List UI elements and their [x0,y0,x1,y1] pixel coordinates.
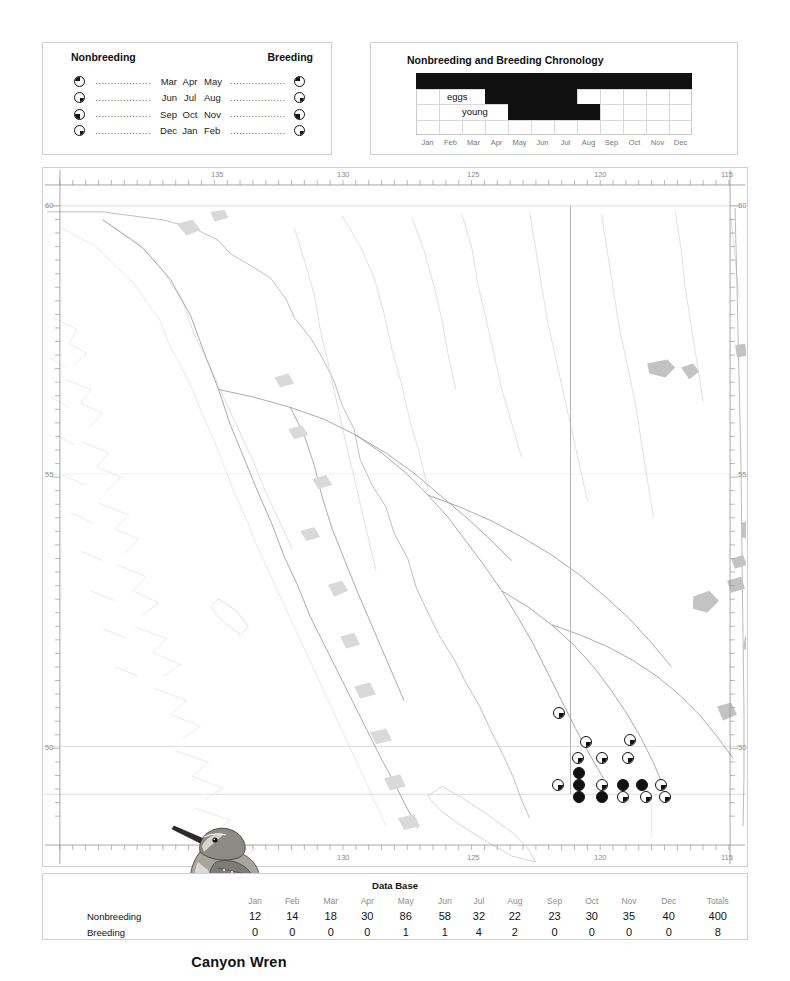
pie-quarter-bottom-right-icon [294,92,305,103]
table-total-cell: 400 [689,908,747,924]
legend-month-right: Aug [202,92,230,103]
map-record-symbol[interactable] [596,779,608,791]
chronology-month-label: Jun [531,138,554,147]
table-cell: 18 [311,908,349,924]
table-cell: 0 [574,924,609,940]
chronology-label-eggs: eggs [445,90,470,104]
chronology-month-label: Aug [577,138,600,147]
legend-leader-dots: .................. [85,76,151,86]
table-column-header: Feb [273,894,311,908]
table-cell: 22 [495,908,535,924]
map-lat-label-left: 50 [45,743,53,752]
legend-headings: Nonbreeding Breeding [43,51,331,71]
legend-row: .................. Mar Apr May .........… [43,73,331,90]
table-cell: 58 [427,908,463,924]
legend-row: .................. Sep Oct Nov .........… [43,106,331,123]
map-record-symbol[interactable] [617,779,629,791]
distribution-map[interactable] [43,168,747,866]
map-record-symbol[interactable] [659,791,671,803]
map-record-symbol[interactable] [552,779,564,791]
chronology-month-label: Apr [485,138,508,147]
legend-row: .................. Dec Jan Feb .........… [43,123,331,140]
chronology-month-label: Jul [554,138,577,147]
table-row-label: Breeding [43,924,237,940]
legend-leader-dots: .................. [230,93,294,103]
map-record-symbol[interactable] [622,752,634,764]
pie-quarter-bottom-left-icon [294,109,305,120]
table-header-row: JanFebMarAprMayJunJulAugSepOctNovDecTota… [43,894,747,908]
legend-symbol-right [294,109,308,120]
database-title: Data Base [43,880,747,891]
nonbreeding-bar [416,73,692,89]
map-record-symbol[interactable] [573,791,585,803]
species-name: Canyon Wren [139,954,339,970]
legend-symbol-right [294,76,308,87]
legend-month-mid: Jul [178,92,202,103]
chronology-month-label: Jan [416,138,439,147]
map-record-symbol[interactable] [573,767,585,779]
table-cell: 0 [535,924,575,940]
legend-leader-dots: .................. [85,109,151,119]
map-record-symbol[interactable] [580,736,592,748]
legend-month-mid: Apr [178,76,202,87]
map-record-symbol[interactable] [640,791,652,803]
table-total-cell: 8 [689,924,747,940]
table-cell: 1 [427,924,463,940]
map-lon-label-bottom: 120 [594,853,607,862]
legend-rows: .................. Mar Apr May .........… [43,73,331,139]
legend-leader-dots: .................. [230,76,294,86]
pie-quarter-top-left-icon [294,76,305,87]
legend-month-left: Dec [151,125,178,136]
table-cell: 0 [609,924,649,940]
legend-month-mid: Oct [178,109,202,120]
map-lat-label-right: 50 [738,743,746,752]
table-cell: 23 [535,908,575,924]
map-lon-label-top: 115 [721,170,733,179]
chronology-month-label: Feb [439,138,462,147]
chronology-panel: Nonbreeding and Breeding Chronology eggs… [370,42,738,155]
legend-panel: Nonbreeding Breeding .................. … [42,42,332,155]
map-record-symbol[interactable] [553,707,565,719]
eggs-bar [485,89,577,105]
pie-quarter-bottom-right-icon [74,92,85,103]
map-lon-label-top: 135 [211,170,224,179]
map-record-symbol[interactable] [617,791,629,803]
table-cell: 35 [609,908,649,924]
pie-quarter-top-left-icon [74,76,85,87]
table-column-header: Totals [689,894,747,908]
map-record-symbol[interactable] [596,752,608,764]
legend-heading-breeding: Breeding [267,51,313,63]
map-record-symbol[interactable] [573,779,585,791]
table-body: Nonbreeding121418308658322223303540400Br… [43,908,747,940]
legend-leader-dots: .................. [85,126,151,136]
pie-quarter-bottom-right-icon [294,125,305,136]
map-record-symbol[interactable] [624,734,636,746]
legend-symbol-left [71,109,85,120]
table-column-header: Jul [463,894,495,908]
map-lat-label-left: 55 [45,470,53,479]
map-panel[interactable]: 135 130 125 120 115 135 130 125 120 115 … [42,167,748,867]
chronology-label-young: young [460,105,490,119]
map-lon-label-bottom: 125 [467,853,480,862]
pie-quarter-bottom-right-icon [74,125,85,136]
table-cell: 32 [463,908,495,924]
map-record-symbol[interactable] [596,791,608,803]
legend-month-left: Mar [151,76,178,87]
map-record-symbol[interactable] [636,779,648,791]
legend-month-right: May [202,76,230,87]
legend-symbol-left [71,125,85,136]
chronology-month-label: Dec [669,138,692,147]
map-record-symbol[interactable] [572,752,584,764]
map-lat-label-right: 60 [738,201,746,210]
table-cell: 14 [273,908,311,924]
legend-leader-dots: .................. [85,93,151,103]
database-table: JanFebMarAprMayJunJulAugSepOctNovDecTota… [43,894,747,940]
map-lon-label-top: 125 [467,170,480,179]
map-record-symbol[interactable] [655,779,667,791]
legend-leader-dots: .................. [230,109,294,119]
table-cell: 86 [385,908,427,924]
table-column-header: Sep [535,894,575,908]
legend-symbol-right [294,92,308,103]
legend-symbol-left [71,76,85,87]
chronology-gridline-horizontal [416,120,692,121]
